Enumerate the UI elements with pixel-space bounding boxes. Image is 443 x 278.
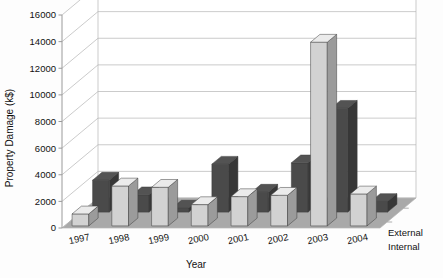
bar-external-2003 (311, 34, 337, 226)
x-tick-label-2000: 2000 (187, 231, 210, 246)
y-tick-labels: 0200040006000800010000120001400016000 (30, 9, 56, 233)
x-tick-label-1998: 1998 (107, 231, 130, 246)
y-axis (59, 15, 63, 228)
y-tick-label: 0 (51, 222, 56, 233)
y-tick-label: 4000 (35, 169, 56, 180)
bar-external-2000 (191, 197, 217, 226)
y-axis-title: Property Damage (k$) (4, 89, 15, 187)
bar-external-1998 (112, 178, 138, 226)
legend-label-internal: Internal (388, 241, 420, 252)
bar-external-2001 (231, 189, 257, 226)
x-tick-labels: 19971998199920002001200220032004 (68, 231, 369, 246)
x-tick-label-1999: 1999 (147, 231, 170, 246)
x-tick-label-2004: 2004 (346, 231, 369, 246)
y-tick-label: 6000 (35, 143, 56, 154)
bar-external-2002 (271, 187, 297, 225)
y-tick-label: 16000 (30, 9, 56, 20)
bar-external-2004 (350, 186, 376, 226)
bar-chart-3d: 0200040006000800010000120001400016000 19… (0, 0, 443, 278)
y-tick-label: 2000 (35, 196, 56, 207)
y-tick-label: 12000 (30, 63, 56, 74)
x-tick-label-1997: 1997 (68, 231, 91, 246)
chart-container: 0200040006000800010000120001400016000 19… (0, 0, 443, 278)
legend-label-external: External (388, 227, 423, 238)
x-tick-label-2003: 2003 (306, 231, 329, 246)
x-tick-label-2002: 2002 (266, 231, 289, 246)
back-wall (98, 0, 416, 198)
x-axis-title: Year (186, 259, 207, 270)
y-tick-label: 14000 (30, 36, 56, 47)
y-tick-label: 10000 (30, 89, 56, 100)
x-tick-label-2001: 2001 (227, 231, 250, 246)
y-tick-label: 8000 (35, 116, 56, 127)
bar-external-1999 (152, 179, 178, 225)
